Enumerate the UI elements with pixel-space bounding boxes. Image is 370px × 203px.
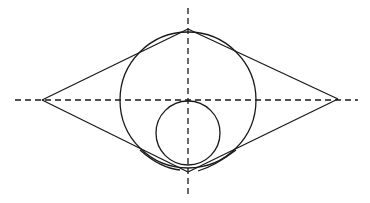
tangent-left-lower xyxy=(42,100,188,172)
tangent-left-upper xyxy=(42,29,188,100)
geometric-diagram xyxy=(0,0,370,203)
tangent-right-upper xyxy=(188,29,338,99)
